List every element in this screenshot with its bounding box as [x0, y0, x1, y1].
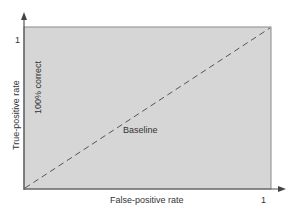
x-axis-arrow-icon	[278, 186, 286, 192]
y-tick-1: 1	[15, 36, 20, 45]
roc-plot	[0, 0, 299, 216]
x-axis-label: False-positive rate	[110, 196, 184, 205]
y-axis-label: True-positive rate	[12, 80, 21, 150]
x-tick-1: 1	[261, 196, 266, 205]
perfect-curve-label: 100% correct	[34, 61, 43, 114]
baseline-label: Baseline	[123, 126, 158, 135]
y-axis-arrow-icon	[21, 12, 27, 20]
